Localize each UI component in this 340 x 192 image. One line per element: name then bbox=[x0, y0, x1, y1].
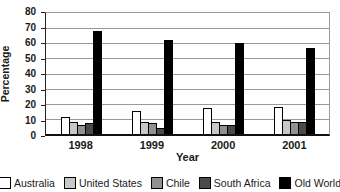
bar-old-world-2001 bbox=[306, 48, 315, 134]
legend-swatch-united-states bbox=[64, 177, 76, 189]
x-axis-labels: 1998199920002001 bbox=[45, 139, 330, 151]
legend-label-australia: Australia bbox=[14, 177, 55, 189]
x-axis-title: Year bbox=[45, 151, 330, 163]
legend-label-old-world: Old World bbox=[294, 177, 340, 189]
y-tick-label-20: 20 bbox=[6, 99, 36, 110]
legend: AustraliaUnited StatesChileSouth AfricaO… bbox=[0, 177, 340, 189]
y-tick-label-70: 70 bbox=[6, 22, 36, 33]
legend-label-south-africa: South Africa bbox=[214, 177, 271, 189]
bars-layer bbox=[46, 13, 329, 134]
bar-group-1998 bbox=[46, 13, 117, 134]
legend-item-south-africa: South Africa bbox=[199, 177, 271, 189]
x-tick-label-2001: 2001 bbox=[259, 139, 330, 151]
bar-old-world-1998 bbox=[93, 31, 102, 134]
x-tick-label-2000: 2000 bbox=[188, 139, 259, 151]
legend-label-united-states: United States bbox=[79, 177, 142, 189]
legend-swatch-old-world bbox=[279, 177, 291, 189]
y-tick-label-10: 10 bbox=[6, 115, 36, 126]
legend-item-united-states: United States bbox=[64, 177, 142, 189]
bar-group-1999 bbox=[117, 13, 188, 134]
y-tick-label-40: 40 bbox=[6, 68, 36, 79]
y-axis: 01020304050607080 bbox=[0, 12, 45, 136]
plot-area bbox=[45, 12, 330, 136]
bar-group-2001 bbox=[258, 13, 329, 134]
legend-item-chile: Chile bbox=[151, 177, 190, 189]
legend-swatch-south-africa bbox=[199, 177, 211, 189]
legend-label-chile: Chile bbox=[166, 177, 190, 189]
bar-chart-figure: Percentage 01020304050607080 19981999200… bbox=[0, 0, 340, 192]
y-tick-label-80: 80 bbox=[6, 6, 36, 17]
x-tick-label-1998: 1998 bbox=[45, 139, 116, 151]
bar-old-world-2000 bbox=[235, 43, 244, 134]
y-tick-label-50: 50 bbox=[6, 53, 36, 64]
legend-swatch-australia bbox=[0, 177, 11, 189]
legend-item-old-world: Old World bbox=[279, 177, 340, 189]
legend-item-australia: Australia bbox=[0, 177, 55, 189]
bar-old-world-1999 bbox=[164, 40, 173, 134]
y-tick-label-30: 30 bbox=[6, 84, 36, 95]
legend-swatch-chile bbox=[151, 177, 163, 189]
y-tick-label-0: 0 bbox=[6, 130, 36, 141]
bar-group-2000 bbox=[188, 13, 259, 134]
x-tick-label-1999: 1999 bbox=[116, 139, 187, 151]
y-tick-label-60: 60 bbox=[6, 37, 36, 48]
y-tick-mark-0 bbox=[41, 136, 45, 137]
